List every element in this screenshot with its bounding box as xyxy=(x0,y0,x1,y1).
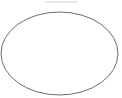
smudge-artifact-icon xyxy=(45,1,78,3)
shape-canvas-svg xyxy=(0,0,122,98)
drawing-canvas: Ellipse Thin gray ellipse outline on a w… xyxy=(0,0,122,98)
